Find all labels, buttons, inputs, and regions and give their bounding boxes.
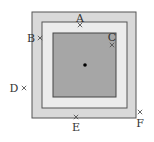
- diagram-canvas: ABCDEF: [0, 0, 154, 142]
- point-label: F: [136, 117, 144, 130]
- point-label: D: [10, 82, 19, 95]
- center-point: [83, 63, 87, 67]
- point-a: A: [75, 12, 85, 27]
- nested-squares-diagram: ABCDEF: [0, 0, 154, 142]
- point-label: B: [27, 32, 35, 45]
- point-label: A: [75, 12, 85, 25]
- point-label: E: [72, 121, 80, 134]
- point-d: D: [10, 82, 27, 95]
- point-label: C: [108, 31, 116, 44]
- point-f: F: [136, 110, 144, 130]
